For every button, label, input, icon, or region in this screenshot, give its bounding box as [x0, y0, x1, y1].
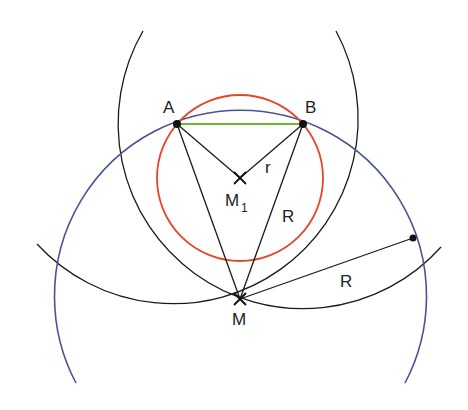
label-r-chord: R	[282, 207, 294, 226]
label-a: A	[163, 98, 175, 117]
label-b: B	[305, 98, 316, 117]
circle-center-m	[54, 110, 426, 383]
label-m1: M	[225, 191, 239, 210]
point-a	[173, 120, 181, 128]
label-m: M	[232, 310, 246, 329]
arc-centered-a	[37, 31, 358, 304]
label-r-radius: R	[340, 272, 352, 291]
segment-m-p	[240, 238, 413, 299]
arc-centered-b	[118, 31, 441, 309]
label-m1-sub: 1	[241, 201, 248, 215]
label-r-small: r	[265, 158, 271, 177]
cross-m1-icon	[234, 172, 246, 184]
geometry-diagram: A B M 1 M r R R	[0, 0, 468, 410]
point-p	[410, 235, 417, 242]
point-b	[299, 120, 307, 128]
